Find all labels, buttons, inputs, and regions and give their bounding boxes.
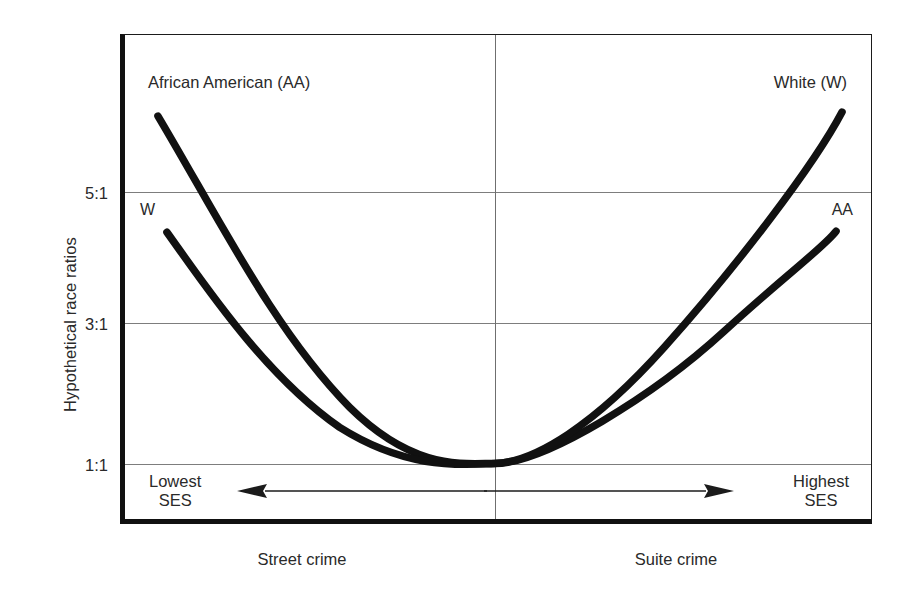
curve-group xyxy=(125,35,871,519)
x-label-street-crime: Street crime xyxy=(258,550,347,569)
curve-african-american xyxy=(158,116,836,464)
lowest-ses-line2: SES xyxy=(149,491,201,510)
y-tick-label-5to1: 5:1 xyxy=(52,184,108,203)
lowest-ses-arrow xyxy=(237,481,487,501)
highest-ses-arrow xyxy=(484,481,734,501)
lowest-ses-label: Lowest SES xyxy=(149,472,201,511)
x-label-suite-crime: Suite crime xyxy=(635,550,718,569)
curve-white xyxy=(167,112,842,464)
lowest-ses-line1: Lowest xyxy=(149,472,201,491)
label-aa-short: AA xyxy=(832,201,853,219)
plot-area: African American (AA) White (W) W AA Low… xyxy=(120,34,872,524)
label-white: White (W) xyxy=(774,73,847,92)
y-tick-label-3to1: 3:1 xyxy=(52,315,108,334)
label-w-short: W xyxy=(140,201,155,219)
highest-ses-line2: SES xyxy=(793,491,849,510)
highest-ses-line1: Highest xyxy=(793,472,849,491)
y-tick-label-1to1: 1:1 xyxy=(52,456,108,475)
label-african-american: African American (AA) xyxy=(148,73,310,92)
highest-ses-label: Highest SES xyxy=(793,472,849,511)
chart-figure: Hypothetical race ratios 5:1 3:1 1:1 Afr… xyxy=(0,0,904,597)
y-axis-tick-labels: 5:1 3:1 1:1 xyxy=(46,0,108,597)
